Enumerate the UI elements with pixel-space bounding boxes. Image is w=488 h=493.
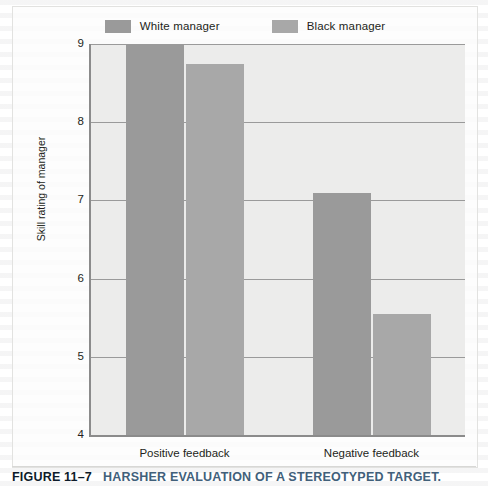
bar-black-manager-negative-feedback [373,314,431,435]
y-axis-title: Skill rating of manager [35,109,47,269]
x-axis-tick-label: Negative feedback [324,447,419,459]
bar-white-manager-negative-feedback [313,193,371,435]
bar-black-manager-positive-feedback [186,64,244,435]
y-axis-tick-label: 8 [78,116,84,128]
figure-panel: White manager Black manager Skill rating… [12,6,478,468]
figure-caption: FIGURE 11–7 HARSHER EVALUATION OF A STER… [12,470,476,484]
figure-caption-title: HARSHER EVALUATION OF A STEREOTYPED TARG… [103,470,441,484]
y-axis-tick-label: 7 [78,195,84,207]
chart-plot-wrapper: Skill rating of manager 987654Positive f… [13,7,477,467]
bar-white-manager-positive-feedback [126,44,184,435]
y-axis-tick-label: 4 [78,429,84,441]
y-axis-tick-label: 6 [78,273,84,285]
y-axis-tick-label: 5 [78,351,84,363]
figure-caption-number: FIGURE 11–7 [12,470,92,484]
y-axis-tick-label: 9 [78,38,84,50]
plot-area: 987654Positive feedbackNegative feedback [89,44,465,437]
caption-divider [12,466,476,467]
x-axis-tick-label: Positive feedback [139,447,229,459]
